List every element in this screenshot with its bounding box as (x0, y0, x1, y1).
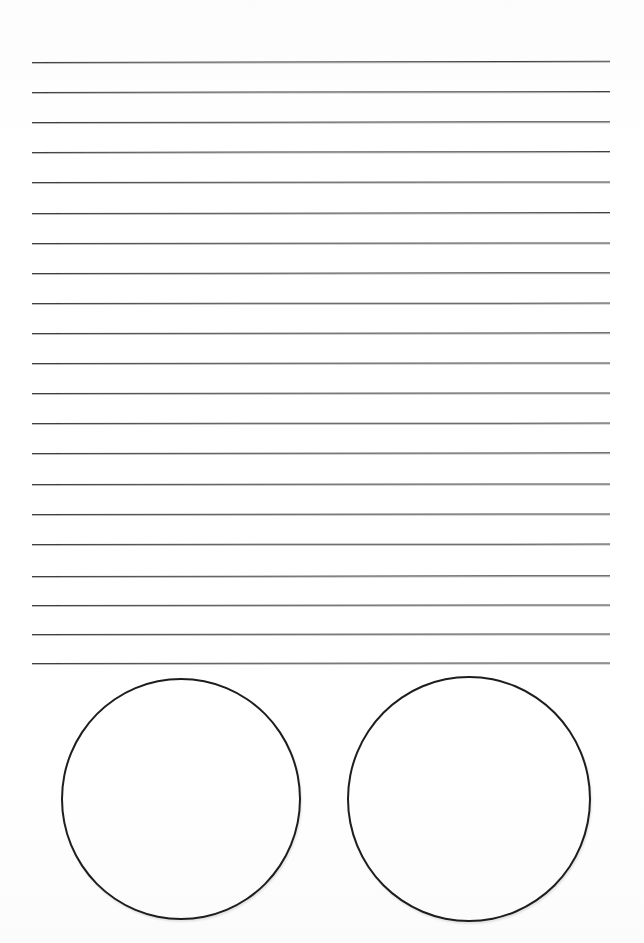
rule-line (32, 452, 610, 454)
rule-line (32, 392, 610, 394)
rule-line (32, 212, 610, 214)
rule-line (32, 121, 610, 123)
rule-line (32, 151, 610, 153)
answer-circle-left[interactable] (61, 678, 301, 920)
rule-line (32, 272, 610, 274)
rule-line (32, 575, 610, 577)
rule-line (32, 544, 610, 545)
answer-circles-area (0, 660, 644, 943)
rule-line (32, 332, 610, 334)
rule-line (32, 303, 610, 304)
rule-line (32, 513, 610, 515)
rule-line (32, 61, 610, 63)
rule-line (32, 181, 610, 183)
rule-line (32, 91, 610, 93)
rule-line (32, 242, 610, 244)
rule-line (32, 423, 610, 424)
rule-line (32, 604, 610, 606)
rule-line (32, 633, 610, 635)
answer-circle-right[interactable] (347, 676, 591, 922)
ruled-lines-area (0, 0, 644, 675)
rule-line (32, 483, 610, 485)
rule-line (32, 362, 610, 364)
worksheet-page (0, 0, 644, 943)
